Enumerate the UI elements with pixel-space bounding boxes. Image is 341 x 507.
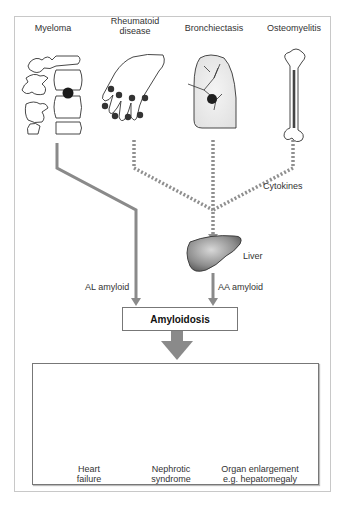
label-cytokines: Cytokines [263,181,303,191]
lung-icon [188,55,236,128]
outcome-kidney-line2: syndrome [142,474,200,484]
outcome-liver-line1: Organ enlargement [210,464,310,474]
liver-icon [187,236,241,272]
label-al-amyloid: AL amyloid [85,282,129,292]
outcome-liver: Organ enlargement e.g. hepatomegaly [210,464,310,484]
outcome-kidney: Nephrotic syndrome [142,464,200,484]
myeloma-lesion-icon [63,88,74,99]
outcome-heart-line2: failure [62,474,116,484]
amyloidosis-label: Amyloidosis [150,314,209,325]
outcome-kidney-line1: Nephrotic [142,464,200,474]
label-aa-amyloid: AA amyloid [218,282,263,292]
outcome-liver-line2: e.g. hepatomegaly [210,474,310,484]
outcome-heart-line1: Heart [62,464,116,474]
amyloidosis-node: Amyloidosis [122,307,238,331]
label-liver: Liver [243,251,263,261]
big-down-arrow-icon [161,341,193,360]
bone-icon [284,49,305,142]
outcome-heart: Heart failure [62,464,116,484]
